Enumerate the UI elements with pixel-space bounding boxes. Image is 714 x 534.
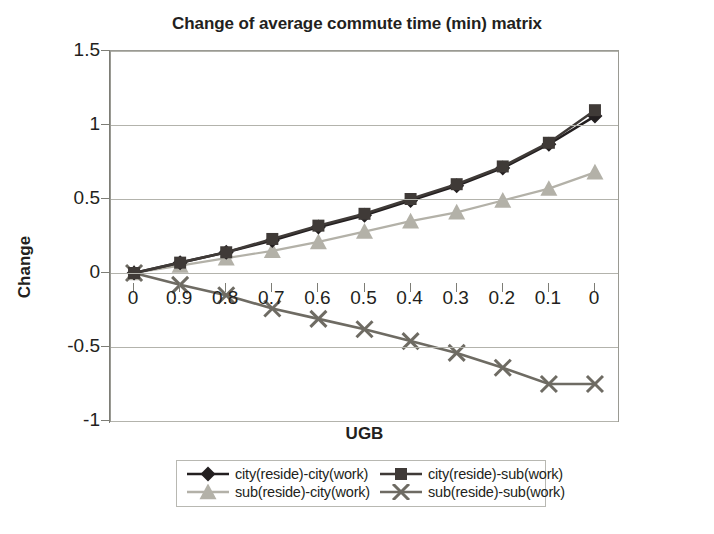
data-point-cross (495, 360, 511, 376)
gridline (111, 51, 618, 52)
legend-marker-triangle-icon (185, 484, 231, 500)
y-axis-tick (101, 50, 110, 51)
y-axis-tick (101, 124, 110, 125)
x-axis-tick-label: 0.2 (489, 287, 515, 309)
y-axis-line (109, 50, 110, 423)
data-point-triangle (586, 164, 603, 180)
y-axis-tick-label: -0.5 (38, 335, 100, 357)
y-axis-tick-label: -1 (38, 409, 100, 431)
data-point-square (312, 220, 324, 232)
chart-title: Change of average commute time (min) mat… (0, 14, 714, 34)
chart-container: Change of average commute time (min) mat… (0, 0, 714, 534)
legend-label: city(reside)-sub(work) (428, 466, 563, 482)
gridline (111, 125, 618, 126)
x-axis-tick-label: 0.9 (166, 287, 192, 309)
x-axis-tick-label: 0 (128, 287, 139, 309)
y-axis-tick (101, 272, 110, 273)
series-line (134, 110, 595, 273)
x-axis-labels: 00.90.80.70.60.50.40.30.20.10 (110, 283, 619, 317)
data-point-square (266, 233, 278, 245)
legend-item[interactable]: city(reside)-city(work) (185, 466, 370, 482)
x-axis-tick-label: 0.8 (212, 287, 238, 309)
y-axis-tick (101, 198, 110, 199)
data-point-square (497, 160, 509, 172)
gridline (111, 273, 618, 274)
legend-label: sub(reside)-sub(work) (428, 484, 565, 500)
gridline (111, 421, 618, 422)
legend-item[interactable]: sub(reside)-sub(work) (378, 484, 565, 500)
y-axis-tick (101, 346, 110, 347)
x-axis-tick-label: 0.5 (350, 287, 376, 309)
legend-item[interactable]: sub(reside)-city(work) (185, 484, 370, 500)
y-axis-tick-label: 1 (38, 113, 100, 135)
x-axis-tick-label: 0 (589, 287, 600, 309)
y-axis-tick-label: 1.5 (38, 39, 100, 61)
data-point-square (220, 246, 232, 258)
x-axis-title: UGB (110, 424, 619, 444)
x-axis-tick-label: 0.4 (396, 287, 422, 309)
series-layer (111, 51, 618, 421)
plot-area (110, 50, 619, 422)
data-point-diamond (201, 467, 216, 482)
y-axis-tick (101, 420, 110, 421)
data-point-square (395, 468, 407, 480)
x-axis-tick-label: 0.6 (304, 287, 330, 309)
y-axis-tick-label: 0 (38, 261, 100, 283)
data-point-square (543, 137, 555, 149)
legend-label: sub(reside)-city(work) (235, 484, 370, 500)
y-axis-labels: 1.510.50-0.5-1 (28, 50, 100, 422)
gridline (111, 199, 618, 200)
chart-legend: city(reside)-city(work)city(reside)-sub(… (176, 460, 546, 507)
legend-marker-cross-icon (378, 484, 424, 500)
legend-marker-diamond-icon (185, 466, 231, 482)
legend-item[interactable]: city(reside)-sub(work) (378, 466, 565, 482)
data-point-triangle (540, 180, 557, 196)
legend-marker-square-icon (378, 466, 424, 482)
data-point-square (451, 178, 463, 190)
x-axis-tick-label: 0.3 (442, 287, 468, 309)
gridline (111, 347, 618, 348)
data-point-square (589, 104, 601, 116)
x-axis-tick-label: 0.1 (535, 287, 561, 309)
data-point-square (174, 257, 186, 269)
y-axis-tick-label: 0.5 (38, 187, 100, 209)
data-point-square (359, 208, 371, 220)
x-axis-tick-label: 0.7 (258, 287, 284, 309)
legend-label: city(reside)-city(work) (235, 466, 368, 482)
